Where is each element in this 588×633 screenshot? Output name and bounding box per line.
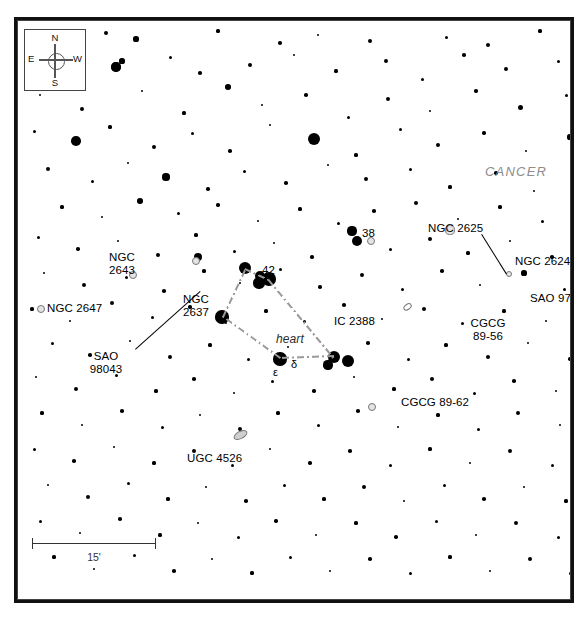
- compass-rose: N S E W: [24, 29, 86, 91]
- star-marker: [104, 31, 108, 35]
- star-marker: [117, 240, 120, 243]
- star-marker: [401, 288, 404, 291]
- star-marker: [127, 162, 130, 165]
- star-marker: [318, 285, 321, 288]
- star-marker: [477, 428, 480, 431]
- star-marker: [206, 187, 209, 190]
- star-marker: [110, 301, 114, 305]
- star-marker: [274, 519, 277, 522]
- star-marker: [482, 497, 486, 501]
- star-marker: [51, 342, 54, 345]
- star-marker: [551, 464, 554, 467]
- star-marker: [348, 449, 352, 453]
- star-marker: [421, 78, 424, 81]
- object-label-ngc2647: NGC 2647: [47, 302, 102, 315]
- star-marker: [473, 392, 476, 395]
- object-label-ic2388: IC 2388: [334, 315, 375, 328]
- star-marker: [541, 220, 544, 223]
- object-label-ngc2643: NGC 2643: [62, 251, 182, 276]
- star-marker: [278, 41, 282, 45]
- asterism-segment: [222, 316, 281, 359]
- star-marker: [60, 205, 63, 208]
- star-marker: [271, 380, 274, 383]
- star-marker: [233, 250, 236, 253]
- object-label-ngc2625: NGC 2625: [428, 222, 483, 235]
- star-marker: [414, 201, 418, 205]
- star-marker: [199, 414, 202, 417]
- star-marker: [101, 216, 104, 219]
- star-marker: [33, 130, 36, 133]
- star-marker: [205, 486, 208, 489]
- star-marker: [293, 54, 296, 57]
- scale-bar-tick-left: [32, 538, 33, 549]
- star-marker: [360, 273, 364, 277]
- star-chart: NGC 2643NGC 2637NGC 2647SAO 98043NGC 262…: [0, 0, 588, 633]
- star-marker: [399, 128, 402, 131]
- object-label-star38: 38: [362, 227, 375, 240]
- star-marker: [389, 464, 392, 467]
- star-marker: [47, 484, 50, 487]
- object-label-cgcg8962: CGCG 89-62: [401, 396, 469, 409]
- star-marker: [440, 269, 444, 273]
- star-marker: [177, 212, 180, 215]
- star-marker: [298, 207, 301, 210]
- star-marker: [253, 277, 264, 288]
- star-marker: [563, 288, 566, 291]
- star-marker: [392, 387, 395, 390]
- star-marker: [342, 303, 346, 307]
- star-marker: [523, 486, 526, 489]
- star-marker: [327, 164, 330, 167]
- star-marker: [208, 343, 211, 346]
- star-marker: [244, 499, 248, 503]
- star-marker: [317, 34, 320, 37]
- star-marker: [557, 536, 560, 539]
- star-marker: [283, 484, 286, 487]
- galaxy-marker: [37, 305, 45, 313]
- star-marker: [113, 446, 116, 449]
- object-label-ngc2637: NGC 2637: [136, 293, 256, 318]
- star-marker: [289, 556, 292, 559]
- star-marker: [168, 355, 172, 359]
- star-marker: [347, 226, 356, 235]
- star-marker: [39, 94, 42, 97]
- object-label-delta: δ: [291, 358, 297, 371]
- star-marker: [489, 570, 492, 573]
- star-marker: [79, 532, 82, 535]
- label-leader-line: [481, 234, 507, 275]
- star-marker: [243, 170, 246, 173]
- star-marker: [352, 236, 362, 246]
- star-marker: [71, 136, 81, 146]
- star-marker: [409, 572, 412, 575]
- compass-south-label: S: [25, 77, 85, 88]
- galaxy-marker: [192, 257, 201, 266]
- star-marker: [557, 60, 560, 63]
- star-marker: [202, 269, 205, 272]
- star-marker: [182, 111, 185, 114]
- galaxy-marker: [232, 428, 249, 442]
- object-label-sao97973: SAO 97973: [530, 292, 571, 305]
- star-marker: [559, 424, 562, 427]
- star-marker: [564, 499, 567, 502]
- star-marker: [194, 233, 197, 236]
- star-marker: [512, 379, 516, 383]
- star-marker: [337, 222, 340, 225]
- star-marker: [257, 220, 260, 223]
- galaxy-marker: [402, 302, 412, 312]
- star-marker: [555, 390, 558, 393]
- star-marker: [304, 93, 308, 97]
- star-marker: [216, 203, 219, 206]
- galaxy-marker: [368, 403, 376, 411]
- compass-west-label: W: [73, 53, 82, 64]
- star-marker: [308, 461, 311, 464]
- star-marker: [40, 411, 43, 414]
- scale-bar-label: 15': [32, 551, 156, 563]
- star-marker: [261, 104, 264, 107]
- star-marker: [225, 84, 231, 90]
- star-marker: [347, 116, 350, 119]
- star-marker: [198, 71, 202, 75]
- star-marker: [362, 485, 366, 489]
- star-marker: [445, 36, 448, 39]
- star-marker: [482, 131, 485, 134]
- star-marker: [162, 173, 169, 180]
- star-marker: [502, 309, 505, 312]
